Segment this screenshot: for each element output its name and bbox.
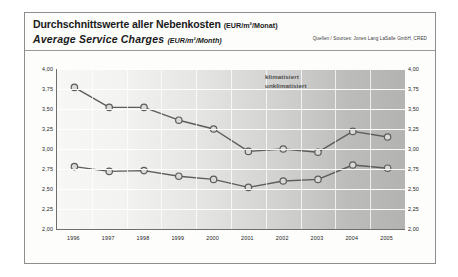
gridline-vertical bbox=[335, 69, 336, 229]
title-german-unit: (EUR/m²/Monat) bbox=[224, 21, 278, 30]
figure-panel: Durchschnittswerte aller Nebenkosten (EU… bbox=[24, 12, 436, 264]
plot-area bbox=[56, 69, 405, 230]
data-point-marker bbox=[280, 178, 286, 184]
source-note: Quellen / Sources: Jones Lang LaSalle Gm… bbox=[313, 36, 427, 41]
plot-area-wrapper: klimatisiert unklimatisiert 4,004,003,75… bbox=[25, 51, 435, 264]
y-axis-tick-label-right: 2,00 bbox=[408, 226, 432, 232]
y-axis-tick-label-left: 3,75 bbox=[29, 86, 53, 92]
gridline-vertical bbox=[127, 69, 128, 229]
gridline-vertical bbox=[370, 69, 371, 229]
figure-header: Durchschnittswerte aller Nebenkosten (EU… bbox=[25, 13, 435, 51]
data-point-marker bbox=[315, 176, 321, 182]
y-axis-tick-label-right: 3,50 bbox=[408, 106, 432, 112]
data-point-marker bbox=[210, 176, 216, 182]
gridline-vertical bbox=[196, 69, 197, 229]
y-axis-tick-label-left: 2,00 bbox=[29, 226, 53, 232]
data-point-marker bbox=[176, 173, 182, 179]
y-axis-tick-label-left: 2,50 bbox=[29, 186, 53, 192]
y-axis-tick-label-left: 2,25 bbox=[29, 206, 53, 212]
y-axis-tick-label-right: 2,75 bbox=[408, 166, 432, 172]
y-axis-tick-label-left: 3,50 bbox=[29, 106, 53, 112]
gridline-vertical bbox=[231, 69, 232, 229]
y-axis-tick-label-left: 3,00 bbox=[29, 146, 53, 152]
title-english-unit: (EUR/m²/Month) bbox=[167, 36, 221, 45]
legend-item-unklimatisiert: unklimatisiert bbox=[265, 82, 307, 91]
y-axis-tick-label-right: 2,50 bbox=[408, 186, 432, 192]
x-axis-tick-label: 2005 bbox=[367, 235, 407, 242]
gridline-vertical bbox=[301, 69, 302, 229]
title-german: Durchschnittswerte aller Nebenkosten (EU… bbox=[33, 18, 427, 32]
gridline-vertical bbox=[161, 69, 162, 229]
data-point-marker bbox=[384, 134, 390, 140]
y-axis-tick-label-right: 2,25 bbox=[408, 206, 432, 212]
y-axis-tick-label-right: 3,00 bbox=[408, 146, 432, 152]
y-axis-tick-label-right: 3,25 bbox=[408, 126, 432, 132]
legend-item-klimatisiert: klimatisiert bbox=[265, 73, 307, 82]
title-english-text: Average Service Charges bbox=[33, 33, 164, 45]
gridline-vertical bbox=[266, 69, 267, 229]
data-point-marker bbox=[350, 162, 356, 168]
y-axis-tick-label-left: 4,00 bbox=[29, 66, 53, 72]
title-german-text: Durchschnittswerte aller Nebenkosten bbox=[33, 18, 221, 30]
data-point-marker bbox=[176, 117, 182, 123]
chart-legend: klimatisiert unklimatisiert bbox=[265, 73, 307, 90]
y-axis-tick-label-right: 3,75 bbox=[408, 86, 432, 92]
y-axis-tick-label-left: 3,25 bbox=[29, 126, 53, 132]
y-axis-tick-label-right: 4,00 bbox=[408, 66, 432, 72]
y-axis-tick-label-left: 2,75 bbox=[29, 166, 53, 172]
gridline-vertical bbox=[92, 69, 93, 229]
